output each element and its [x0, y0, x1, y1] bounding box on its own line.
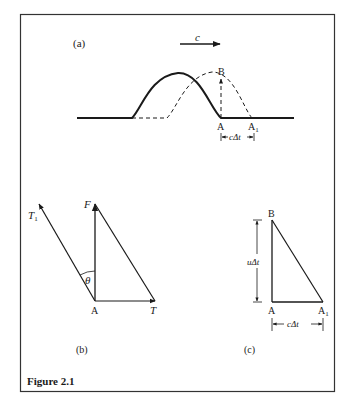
- hypotenuse-ba1: [272, 220, 323, 302]
- panel-b: T1 F θ A T (b): [28, 198, 157, 356]
- horizontal-dimension-label: cΔt: [287, 319, 299, 329]
- point-a1-label-c: A1: [318, 305, 329, 318]
- f-to-t-diagonal: [95, 204, 155, 301]
- point-b-label: B: [218, 66, 225, 77]
- point-a-label-c: A: [268, 305, 276, 316]
- panel-c: B A A1 uΔt cΔt (c): [244, 208, 329, 356]
- point-a1-label: A1: [248, 121, 259, 134]
- panel-a: (a) c B A A1 cΔt: [73, 31, 294, 142]
- vertical-dimension-label: uΔt: [247, 257, 260, 267]
- t1-vector-arrow: [39, 204, 95, 301]
- figure-frame: [21, 15, 335, 392]
- dimension-c-delta-t: cΔt: [229, 132, 241, 142]
- t-label: T: [150, 304, 157, 316]
- figure-caption: Figure 2.1: [27, 375, 74, 387]
- pulse-solid-curve: [77, 73, 294, 118]
- theta-label: θ: [85, 274, 91, 286]
- panel-a-label: (a): [73, 37, 86, 50]
- panel-b-label: (b): [76, 344, 88, 356]
- figure-canvas: (a) c B A A1 cΔt T1 F θ A T: [0, 0, 346, 408]
- panel-c-label: (c): [244, 344, 255, 356]
- t1-label: T1: [28, 209, 38, 223]
- point-b-label-c: B: [268, 208, 275, 219]
- point-a-label-b: A: [91, 305, 99, 316]
- point-a-label: A: [217, 121, 225, 132]
- f-label: F: [83, 198, 91, 210]
- velocity-label: c: [195, 31, 200, 43]
